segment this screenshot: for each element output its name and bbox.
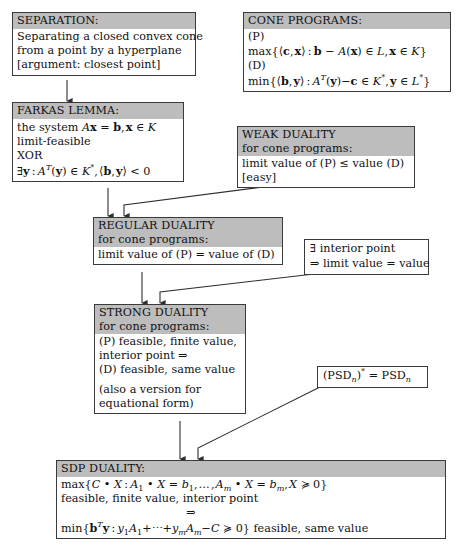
weak-duality-body: limit value of (P) ≤ value (D) [easy]	[238, 156, 414, 187]
strong-duality-header-line-1: STRONG DUALITY	[99, 306, 241, 320]
regular-duality-line-1: limit value of (P) = value of (D)	[98, 248, 278, 262]
farkas-body: the system Ax = b, x ∈ K limit-feasible …	[13, 119, 183, 181]
box-interior-point: ∃ interior point ⇒ limit value = value	[304, 239, 429, 275]
separation-line-1: Separating a closed convex cone	[17, 30, 191, 44]
psd-selfdual-line-1: (PSDn)* = PSDn	[323, 369, 422, 384]
cone-programs-header: CONE PROGRAMS:	[244, 13, 450, 29]
weak-duality-line-2: [easy]	[242, 171, 410, 185]
sdp-duality-body: max{C • X : A1 • X = b1, … , Am • X = bm…	[57, 477, 445, 538]
box-strong-duality: STRONG DUALITY for cone programs: (P) fe…	[94, 304, 246, 414]
box-regular-duality: REGULAR DUALITY for cone programs: limit…	[93, 217, 283, 265]
strong-duality-header-line-2: for cone programs:	[99, 320, 241, 334]
cone-programs-line-4: min{⟨b, y⟩ : AT(y)−c ∈ K*, y ∈ L*}	[248, 74, 446, 89]
separation-line-3: [argument: closest point]	[17, 58, 191, 72]
weak-duality-header-line-1: WEAK DUALITY	[242, 128, 410, 142]
sdp-duality-header: SDP DUALITY:	[57, 461, 445, 477]
strong-duality-header: STRONG DUALITY for cone programs:	[95, 305, 245, 334]
box-weak-duality: WEAK DUALITY for cone programs: limit va…	[237, 126, 415, 188]
strong-duality-line-2: interior point ⇒	[99, 349, 241, 363]
cone-programs-line-3: (D)	[248, 59, 446, 73]
strong-duality-line-5: (also a version for	[99, 383, 241, 397]
separation-body: Separating a closed convex cone from a p…	[13, 29, 195, 75]
interior-point-line-1: ∃ interior point	[310, 242, 423, 257]
strong-duality-line-3: (D) feasible, same value	[99, 363, 241, 377]
box-farkas-lemma: FARKAS LEMMA: the system Ax = b, x ∈ K l…	[12, 102, 184, 182]
box-separation: SEPARATION: Separating a closed convex c…	[12, 12, 196, 76]
strong-duality-line-6: equational form)	[99, 397, 241, 411]
strong-duality-line-1: (P) feasible, finite value,	[99, 335, 241, 349]
box-psd-selfdual: (PSDn)* = PSDn	[317, 366, 428, 388]
edge-weak-duality-to-regular-duality	[124, 185, 278, 216]
box-sdp-duality: SDP DUALITY: max{C • X : A1 • X = b1, … …	[56, 460, 446, 539]
farkas-line-3: XOR	[17, 149, 179, 163]
farkas-line-2: limit-feasible	[17, 135, 179, 149]
cone-programs-line-1: (P)	[248, 30, 446, 44]
diagram-canvas: SEPARATION: Separating a closed convex c…	[0, 0, 463, 555]
regular-duality-header: REGULAR DUALITY for cone programs:	[94, 218, 282, 247]
separation-line-2: from a point by a hyperplane	[17, 44, 191, 58]
cone-programs-line-2: max{⟨c, x⟩ : b − A(x) ∈ L, x ∈ K}	[248, 44, 446, 59]
sdp-duality-line-3: ⇒	[61, 506, 441, 520]
weak-duality-header: WEAK DUALITY for cone programs:	[238, 127, 414, 156]
farkas-line-4: ∃y : AT(y) ∈ K*, ⟨b, y⟩ < 0	[17, 164, 179, 179]
regular-duality-header-line-1: REGULAR DUALITY	[98, 219, 278, 233]
farkas-line-1: the system Ax = b, x ∈ K	[17, 120, 179, 135]
box-cone-programs: CONE PROGRAMS: (P) max{⟨c, x⟩ : b − A(x)…	[243, 12, 451, 92]
farkas-header: FARKAS LEMMA:	[13, 103, 183, 119]
regular-duality-header-line-2: for cone programs:	[98, 233, 278, 247]
sdp-duality-line-1: max{C • X : A1 • X = b1, … , Am • X = bm…	[61, 478, 441, 492]
interior-point-line-2: ⇒ limit value = value	[310, 257, 423, 272]
weak-duality-line-1: limit value of (P) ≤ value (D)	[242, 157, 410, 171]
weak-duality-header-line-2: for cone programs:	[242, 142, 410, 156]
regular-duality-body: limit value of (P) = value of (D)	[94, 247, 282, 264]
edge-interior-point-to-strong-duality	[160, 272, 331, 303]
sdp-duality-line-2: feasible, finite value, interior point	[61, 492, 441, 506]
strong-duality-body: (P) feasible, finite value, interior poi…	[95, 334, 245, 413]
sdp-duality-line-4: min{bTy : y1A1+⋯+ymAm−C ≽ 0} feasible, s…	[61, 521, 441, 536]
cone-programs-body: (P) max{⟨c, x⟩ : b − A(x) ∈ L, x ∈ K} (D…	[244, 29, 450, 91]
separation-header: SEPARATION:	[13, 13, 195, 29]
